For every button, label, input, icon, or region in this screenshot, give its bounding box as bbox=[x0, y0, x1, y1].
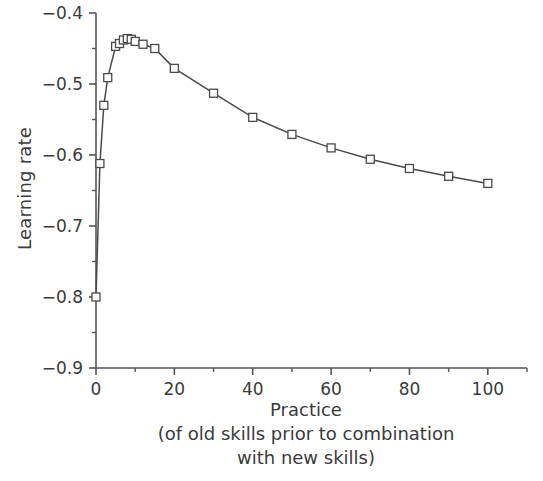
svg-text:−0.7: −0.7 bbox=[42, 216, 83, 236]
svg-text:−0.6: −0.6 bbox=[42, 145, 83, 165]
tick-marks bbox=[89, 13, 527, 375]
x-axis-label: Practice (of old skills prior to combina… bbox=[96, 398, 516, 469]
data-markers bbox=[92, 35, 492, 301]
svg-text:−0.5: −0.5 bbox=[42, 74, 83, 94]
svg-text:80: 80 bbox=[399, 379, 421, 399]
svg-text:40: 40 bbox=[242, 379, 264, 399]
svg-text:−0.8: −0.8 bbox=[42, 287, 83, 307]
svg-text:0: 0 bbox=[91, 379, 102, 399]
chart-figure: Learning rate −0.4−0.5−0.6−0.7−0.8−0.902… bbox=[0, 0, 543, 481]
x-axis-label-line3: with new skills) bbox=[96, 446, 516, 470]
axes bbox=[96, 13, 527, 368]
svg-text:−0.9: −0.9 bbox=[42, 358, 83, 378]
svg-text:100: 100 bbox=[472, 379, 504, 399]
svg-text:−0.4: −0.4 bbox=[42, 3, 83, 23]
svg-text:20: 20 bbox=[164, 379, 186, 399]
data-line bbox=[96, 39, 488, 297]
svg-text:60: 60 bbox=[320, 379, 342, 399]
x-axis-label-line2: (of old skills prior to combination bbox=[96, 422, 516, 446]
x-axis-label-line1: Practice bbox=[96, 398, 516, 422]
